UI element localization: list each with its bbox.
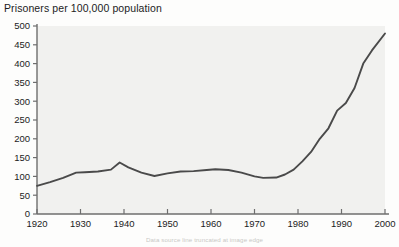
svg-text:500: 500 — [14, 20, 30, 31]
svg-text:50: 50 — [19, 190, 30, 201]
svg-text:200: 200 — [14, 133, 30, 144]
svg-text:300: 300 — [14, 96, 30, 107]
svg-text:2000: 2000 — [374, 218, 395, 229]
svg-text:350: 350 — [14, 77, 30, 88]
svg-text:1970: 1970 — [244, 218, 265, 229]
y-axis-labels: 050100150200250300350400450500 — [14, 20, 30, 219]
svg-text:150: 150 — [14, 152, 30, 163]
svg-text:1980: 1980 — [287, 218, 308, 229]
svg-text:100: 100 — [14, 171, 30, 182]
line-chart-svg: 050100150200250300350400450500 192019301… — [0, 0, 399, 232]
caption-text: Data source line truncated at image edge — [146, 236, 263, 243]
svg-text:1990: 1990 — [331, 218, 352, 229]
svg-text:1920: 1920 — [26, 218, 47, 229]
svg-text:1950: 1950 — [157, 218, 178, 229]
plot-area: 050100150200250300350400450500 192019301… — [0, 0, 399, 232]
svg-text:1930: 1930 — [70, 218, 91, 229]
x-axis-labels: 192019301940195019601970198019902000 — [26, 218, 395, 229]
svg-text:400: 400 — [14, 58, 30, 69]
svg-text:1960: 1960 — [200, 218, 221, 229]
svg-text:450: 450 — [14, 39, 30, 50]
chart-figure: Prisoners per 100,000 population 0501001… — [0, 0, 399, 247]
svg-text:1940: 1940 — [113, 218, 134, 229]
svg-text:250: 250 — [14, 114, 30, 125]
figure-caption: Data source line truncated at image edge — [0, 236, 399, 247]
